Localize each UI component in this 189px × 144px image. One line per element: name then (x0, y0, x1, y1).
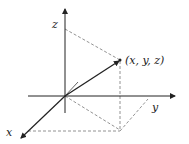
floor-diagonal-line (65, 96, 120, 130)
y-axis-label: y (151, 101, 159, 114)
projection-lines (28, 29, 148, 131)
coordinate-diagram: z y x (x, y, z) (0, 0, 189, 144)
z-projection-line (65, 29, 120, 60)
point-label: (x, y, z) (125, 54, 164, 67)
point-marker (119, 59, 122, 62)
z-axis-label: z (51, 18, 58, 31)
position-vector (65, 61, 119, 96)
x-axis (21, 96, 65, 138)
axes (21, 9, 175, 138)
x-axis-label: x (6, 126, 13, 139)
y-projection-line (120, 99, 148, 131)
